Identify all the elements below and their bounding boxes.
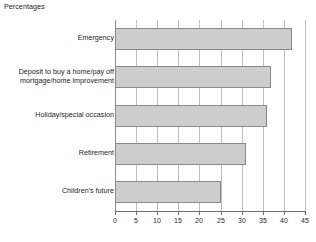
- category-label: Children's future: [62, 187, 114, 196]
- category-label: Deposit to buy a home/pay off mortgage/h…: [19, 68, 114, 85]
- x-axis-line: [115, 211, 305, 212]
- x-tick-40: [284, 211, 285, 215]
- bar: [115, 181, 221, 203]
- x-tick-15: [178, 211, 179, 215]
- plot-area: [115, 20, 305, 211]
- gridline-45: [305, 20, 306, 211]
- x-tick-5: [136, 211, 137, 215]
- x-tick-30: [242, 211, 243, 215]
- bar: [115, 66, 271, 88]
- chart-title: Percentages: [4, 2, 45, 11]
- bar: [115, 105, 267, 127]
- bar: [115, 28, 292, 50]
- x-tick-35: [263, 211, 264, 215]
- category-label: Holiday/special occasion: [35, 111, 114, 120]
- x-tick-label-45: 45: [293, 217, 316, 224]
- bar: [115, 143, 246, 165]
- category-label: Retirement: [79, 149, 114, 158]
- bar-chart: Percentages 051015202530354045EmergencyD…: [0, 0, 316, 242]
- x-tick-label-20: 20: [187, 217, 211, 224]
- category-label: Emergency: [78, 34, 114, 43]
- x-tick-0: [115, 211, 116, 215]
- x-tick-45: [305, 211, 306, 215]
- x-tick-10: [157, 211, 158, 215]
- x-tick-20: [199, 211, 200, 215]
- x-tick-25: [221, 211, 222, 215]
